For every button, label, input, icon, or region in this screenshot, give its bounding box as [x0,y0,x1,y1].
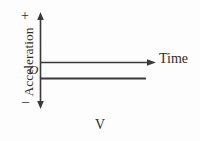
origin-label: O [29,63,38,76]
y-axis-up-arrowhead [37,12,44,20]
acceleration-time-graph-figure: Acceleration + – O Time V [0,0,200,141]
x-axis-right-arrowhead [147,59,156,66]
y-axis-negative-sign: – [22,95,29,109]
figure-caption: V [0,118,200,132]
y-axis-down-arrowhead [37,101,44,109]
x-axis-label: Time [159,52,188,66]
y-axis-positive-sign: + [21,9,29,23]
